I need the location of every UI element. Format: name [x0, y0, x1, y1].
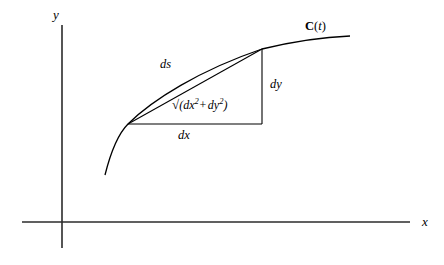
dy-label: dy [270, 78, 282, 91]
diagram-canvas [0, 0, 444, 265]
sqrt-expression-label: √(dx2+ dy2) [172, 97, 227, 111]
dx-label: dx [178, 129, 190, 142]
background [0, 0, 444, 265]
curve-label-c: C [305, 19, 314, 33]
arc-length-ds-label: ds [160, 58, 171, 71]
curve-label-close-paren: ) [322, 19, 326, 33]
sqrt-dx-term: dx [183, 98, 194, 112]
curve-label-ct: C(t) [305, 20, 326, 33]
y-axis-label: y [53, 8, 59, 21]
x-axis-label: x [422, 215, 428, 228]
sqrt-close-paren: ) [223, 98, 227, 112]
sqrt-plus-sign: + [199, 98, 207, 112]
sqrt-dy-term: dy [208, 98, 219, 112]
